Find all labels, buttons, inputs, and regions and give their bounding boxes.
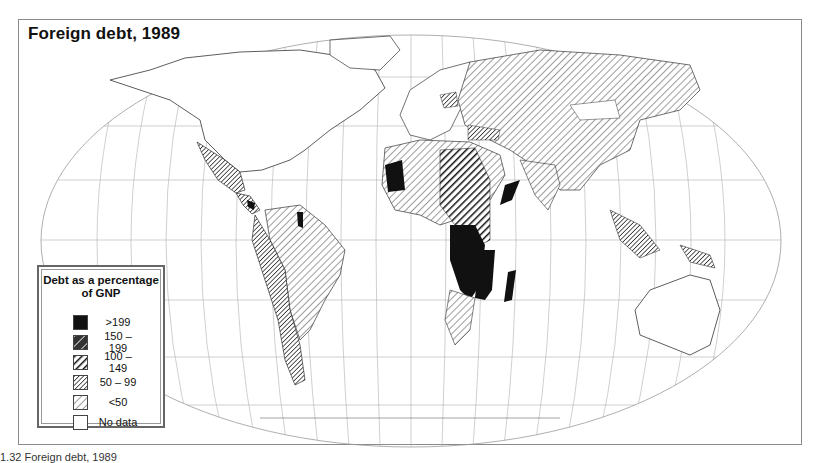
light-hatch-swatch-icon bbox=[73, 395, 88, 410]
north-america bbox=[110, 50, 385, 172]
mauritania bbox=[385, 160, 405, 192]
legend-item-over-199: >199 bbox=[73, 312, 142, 332]
legend-item-100-149: 100 – 149 bbox=[73, 352, 142, 372]
figure-caption: 1.32 Foreign debt, 1989 bbox=[0, 451, 117, 463]
legend-title-line1: Debt as a percentage bbox=[39, 274, 163, 287]
legend-item-50-99: 50 – 99 bbox=[73, 372, 142, 392]
legend-label: 50 – 99 bbox=[94, 376, 142, 388]
legend: Debt as a percentage of GNP >199 150 – 1… bbox=[37, 265, 165, 428]
wide-dark-hatch-swatch-icon bbox=[73, 335, 88, 350]
blank-swatch-icon bbox=[73, 415, 88, 430]
australia bbox=[635, 275, 720, 355]
southern-africa bbox=[445, 290, 475, 345]
legend-label: 100 – 149 bbox=[94, 350, 142, 374]
somalia bbox=[500, 180, 520, 205]
papua-new-guinea bbox=[680, 245, 715, 268]
india bbox=[520, 160, 560, 210]
legend-label: No data bbox=[94, 416, 142, 428]
madagascar bbox=[504, 270, 516, 302]
legend-title: Debt as a percentage of GNP bbox=[39, 274, 163, 300]
legend-items: >199 150 – 199 100 – 149 50 – 99 <50 No … bbox=[73, 312, 142, 432]
bold-hatch-swatch-icon bbox=[73, 355, 88, 370]
legend-title-line2: of GNP bbox=[39, 287, 163, 300]
legend-item-under-50: <50 bbox=[73, 392, 142, 412]
indonesia-philippines bbox=[610, 210, 660, 258]
legend-label: >199 bbox=[94, 316, 142, 328]
solid-black-swatch-icon bbox=[73, 315, 88, 330]
dense-hatch-swatch-icon bbox=[73, 375, 88, 390]
legend-label: <50 bbox=[94, 396, 142, 408]
legend-item-no-data: No data bbox=[73, 412, 142, 432]
legend-item-150-199: 150 – 199 bbox=[73, 332, 142, 352]
